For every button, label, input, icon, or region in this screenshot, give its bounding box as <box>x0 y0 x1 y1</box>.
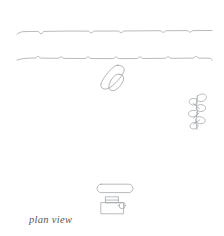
drawing-background <box>0 0 224 236</box>
page-title: plan view <box>29 214 72 225</box>
plan-view-drawing <box>0 0 224 236</box>
